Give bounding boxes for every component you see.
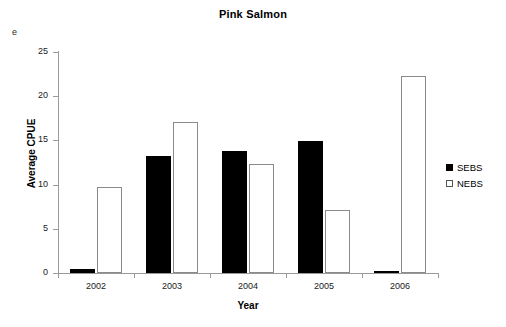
x-axis-tick [134,273,135,278]
legend-label-nebs: NEBS [457,178,483,189]
legend-label-sebs: SEBS [457,162,482,173]
x-axis-tick-label: 2005 [286,281,362,291]
x-axis-tick [362,273,363,278]
x-axis-line [58,273,439,274]
x-axis-tick-label: 2002 [58,281,134,291]
legend-item-sebs: SEBS [446,159,504,175]
bar-sebs-2006 [374,271,399,273]
bar-nebs-2005 [325,210,350,273]
x-axis-tick [438,273,439,278]
x-axis-tick-label: 2003 [134,281,210,291]
bar-sebs-2005 [298,141,323,273]
legend-item-nebs: NEBS [446,175,504,191]
x-axis-title: Year [58,300,438,311]
x-axis-tick-label: 2006 [362,281,438,291]
x-axis-tick [210,273,211,278]
y-axis-tick-label: 0 [8,267,48,277]
plot-area [58,52,438,273]
bar-sebs-2002 [70,269,95,273]
y-axis-tick-label: 25 [8,46,48,56]
legend-swatch-nebs-icon [446,180,453,187]
bar-sebs-2004 [222,151,247,273]
x-axis-tick-label: 2004 [210,281,286,291]
x-axis-tick [286,273,287,278]
legend-swatch-sebs-icon [446,164,453,171]
chart-title: Pink Salmon [0,8,506,20]
chart-legend: SEBS NEBS [446,159,504,191]
y-axis-title: Average CPUE [26,94,37,214]
bar-sebs-2003 [146,156,171,273]
bar-nebs-2003 [173,122,198,273]
bar-nebs-2006 [401,76,426,273]
chart-figure: Pink Salmon e 0510152025 200220032004200… [0,0,506,327]
bar-nebs-2004 [249,164,274,273]
y-axis-tick-label: 5 [8,223,48,233]
bar-nebs-2002 [97,187,122,273]
panel-label: e [12,27,17,37]
x-axis-tick [58,273,59,278]
